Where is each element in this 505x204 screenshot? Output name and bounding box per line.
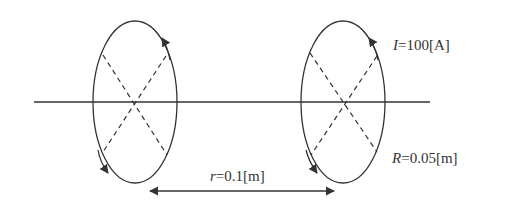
radius-symbol: R xyxy=(391,150,401,166)
radius-label: R=0.05[m] xyxy=(391,150,458,166)
distance-label: r=0.1[m] xyxy=(210,168,265,184)
distance-value: =0.1[m] xyxy=(216,168,265,184)
right-diagonal-2 xyxy=(311,56,377,155)
coil-diagram: I=100[A] R=0.05[m] r=0.1[m] xyxy=(0,0,505,204)
left-diagonal-1 xyxy=(103,55,167,155)
radius-value: =0.05[m] xyxy=(401,150,457,166)
current-label: I=100[A] xyxy=(392,37,450,53)
current-value: =100[A] xyxy=(398,37,450,53)
